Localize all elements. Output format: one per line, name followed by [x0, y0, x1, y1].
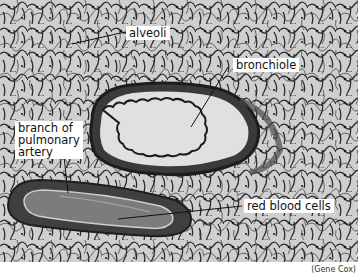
label-bronchiole: bronchiole [233, 58, 299, 72]
label-pulmonary-artery: branch of pulmonary artery [15, 121, 83, 159]
photo-credit: (Gene Cox) [311, 265, 356, 274]
label-alveoli: alveoli [126, 26, 170, 40]
label-red-blood-cells: red blood cells [244, 199, 334, 213]
